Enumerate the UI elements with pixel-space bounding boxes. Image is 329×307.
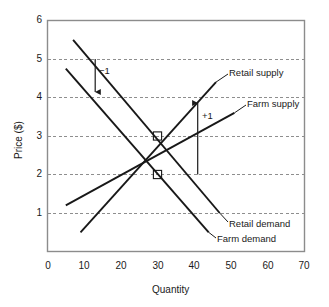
- series-label-farm-supply: Farm supply: [247, 99, 299, 109]
- x-tick-label-20: 20: [109, 261, 133, 271]
- y-tick-label-6: 6: [22, 15, 42, 25]
- x-tick-label-0: 0: [36, 261, 60, 271]
- y-tick-label-3: 3: [22, 131, 42, 141]
- x-tick-label-50: 50: [219, 261, 243, 271]
- annotation-label-plus-one: +1: [202, 111, 213, 121]
- supply-demand-chart-figure: 6 5 4 3 2 1 0 10 20 30 40 50 60 70 Price…: [0, 0, 329, 307]
- x-tick-label-60: 60: [256, 261, 280, 271]
- y-axis-title: Price ($): [14, 121, 24, 159]
- x-axis-title: Quantity: [152, 285, 189, 295]
- annotation-label-minus-one: −1: [99, 66, 110, 76]
- y-tick-label-4: 4: [22, 92, 42, 102]
- x-tick-label-70: 70: [292, 261, 316, 271]
- y-tick-label-2: 2: [22, 169, 42, 179]
- series-label-retail-supply: Retail supply: [229, 68, 283, 78]
- y-tick-label-5: 5: [22, 54, 42, 64]
- series-label-retail-demand: Retail demand: [229, 219, 290, 229]
- x-tick-label-10: 10: [72, 261, 96, 271]
- x-tick-label-30: 30: [146, 261, 170, 271]
- series-label-farm-demand: Farm demand: [217, 234, 276, 244]
- x-tick-label-40: 40: [182, 261, 206, 271]
- y-tick-label-1: 1: [22, 208, 42, 218]
